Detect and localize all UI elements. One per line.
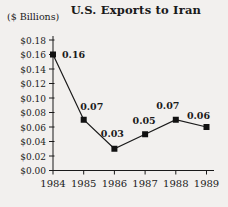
y-axis-tick-label: $0.04 <box>20 137 46 147</box>
data-point-label: 0.05 <box>133 115 156 126</box>
y-axis-tick-label: $0.10 <box>20 94 46 104</box>
trend-line <box>53 55 207 149</box>
x-axis-tick-label: 1989 <box>194 178 219 189</box>
y-axis-tick-label: $0.06 <box>20 123 46 133</box>
x-axis-tick-label: 1984 <box>40 178 65 189</box>
data-point-marker <box>81 117 87 123</box>
y-axis-tick-label: $0.00 <box>20 166 46 176</box>
x-axis-tick-label: 1985 <box>71 178 96 189</box>
data-point-marker <box>142 131 148 137</box>
data-point-marker <box>111 146 117 152</box>
data-point-label: 0.06 <box>187 110 211 121</box>
data-point-marker <box>50 52 56 58</box>
data-point-label: 0.03 <box>101 128 124 139</box>
y-axis-tick-label: $0.14 <box>20 65 46 75</box>
data-point-marker <box>204 124 210 130</box>
y-axis-tick-label: $0.12 <box>20 79 46 89</box>
x-axis-tick-label: 1986 <box>102 178 127 189</box>
x-axis-tick-label: 1987 <box>132 178 157 189</box>
data-point-label: 0.16 <box>62 49 86 60</box>
data-point-marker <box>173 117 179 123</box>
y-axis-tick-label: $0.18 <box>20 36 46 46</box>
data-point-label: 0.07 <box>156 100 179 111</box>
data-point-label: 0.07 <box>80 101 103 112</box>
line-chart: $0.18$0.16$0.14$0.12$0.10$0.08$0.06$0.04… <box>0 0 228 207</box>
y-axis-tick-label: $0.16 <box>20 50 46 60</box>
y-axis-tick-label: $0.08 <box>20 108 46 118</box>
y-axis-tick-label: $0.02 <box>20 152 46 162</box>
chart-figure: ($ Billions) U.S. Exports to Iran $0.18$… <box>0 0 228 207</box>
x-axis-tick-label: 1988 <box>163 178 188 189</box>
